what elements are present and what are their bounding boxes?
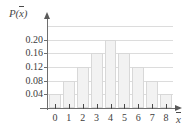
x-tick-label: 4 (105, 112, 117, 123)
x-tick-label: 5 (118, 112, 130, 123)
x-axis-title: x (176, 113, 181, 125)
y-axis-title: P(x) (9, 7, 27, 19)
x-axis-title-variable: x (176, 113, 181, 125)
y-tick-mark (44, 53, 48, 54)
x-tick-label: 0 (49, 112, 61, 123)
x-tick-mark (83, 104, 84, 109)
y-tick-mark (44, 67, 48, 68)
x-tick-mark (166, 104, 167, 109)
x-tick-mark (124, 104, 125, 109)
gridline (48, 26, 173, 27)
x-tick-mark (111, 104, 112, 109)
probability-histogram-figure: P(x) 0.040.080.120.160.20 012345678 x (0, 0, 192, 136)
x-tick-mark (138, 104, 139, 109)
y-axis-arrow-icon (44, 12, 50, 19)
y-tick-mark (44, 94, 48, 95)
x-tick-label: 1 (63, 112, 75, 123)
y-axis-title-prefix: P( (9, 7, 19, 19)
y-axis-line (47, 18, 48, 110)
y-tick-mark (44, 81, 48, 82)
y-tick-label: 0.16 (26, 48, 44, 58)
histogram-bar (105, 40, 117, 108)
x-tick-label: 2 (77, 112, 89, 123)
y-axis-title-variable: x (19, 7, 24, 19)
x-tick-mark (69, 104, 70, 109)
y-tick-label: 0.12 (26, 62, 44, 72)
x-tick-mark (55, 104, 56, 109)
x-tick-label: 7 (146, 112, 158, 123)
y-tick-label: 0.08 (26, 76, 44, 86)
x-tick-label: 3 (91, 112, 103, 123)
histogram-bar (77, 67, 89, 108)
plot-area (48, 26, 173, 108)
histogram-bar (91, 53, 103, 108)
x-axis-arrow-icon (175, 105, 182, 111)
x-tick-mark (152, 104, 153, 109)
histogram-bar (118, 53, 130, 108)
x-tick-label: 8 (160, 112, 172, 123)
x-tick-mark (97, 104, 98, 109)
y-tick-label: 0.20 (26, 35, 44, 45)
x-tick-label: 6 (132, 112, 144, 123)
y-tick-mark (44, 40, 48, 41)
x-axis-line (40, 108, 176, 109)
y-axis-title-suffix: ) (24, 7, 27, 19)
y-tick-label: 0.04 (26, 89, 44, 99)
histogram-bar (132, 67, 144, 108)
